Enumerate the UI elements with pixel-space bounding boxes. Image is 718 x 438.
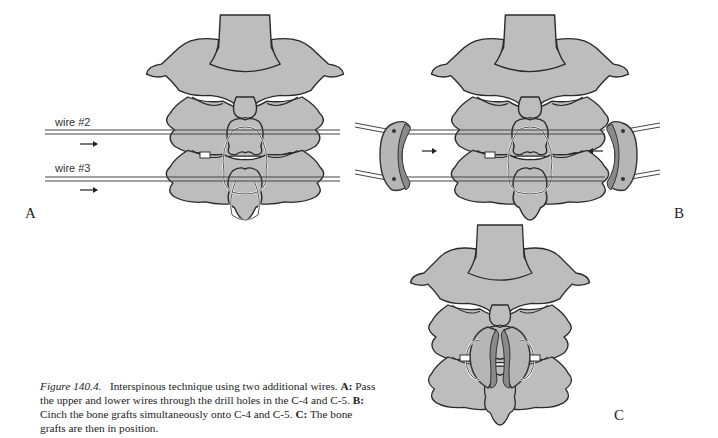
cervical-spine-c (410, 225, 589, 425)
arrow-right-icon (422, 148, 437, 154)
panel-letter-c: C (614, 407, 624, 424)
figure-caption: Figure 140.4. Interspinous technique usi… (40, 379, 378, 435)
figure-title: Interspinous technique using two additio… (110, 380, 338, 392)
part-b-text: Cinch the bone grafts simultaneously ont… (40, 408, 293, 420)
wire-2-label: wire #2 (55, 116, 90, 128)
arrow-right-icon (80, 187, 98, 193)
panel-letter-b: B (674, 205, 684, 222)
bone-graft-left (380, 122, 410, 191)
panel-c-illustration (400, 220, 590, 438)
panel-a-illustration (0, 0, 340, 220)
arrow-right-icon (80, 141, 98, 147)
cervical-spine-a (146, 15, 343, 220)
panel-letter-a: A (25, 205, 36, 222)
part-c-letter: C: (295, 408, 307, 420)
part-a-letter: A: (341, 380, 353, 392)
wire-3-label: wire #3 (55, 162, 90, 174)
bone-graft-right (607, 122, 637, 191)
panel-b-illustration (350, 0, 718, 220)
part-b-letter: B: (353, 394, 364, 406)
figure-number: Figure 140.4. (40, 380, 101, 392)
cervical-spine-b (431, 15, 628, 220)
